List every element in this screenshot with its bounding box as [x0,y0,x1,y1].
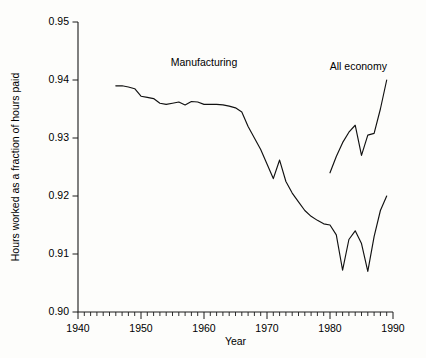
x-tick-label: 1950 [129,322,153,334]
series-label-1: All economy [330,60,388,72]
line-chart: 0.900.910.920.930.940.951940195019601970… [0,0,426,358]
x-tick-label: 1990 [381,322,405,334]
y-tick-label: 0.91 [49,247,70,259]
chart-series-lines [116,80,387,271]
x-tick-label: 1940 [66,322,90,334]
series-line-0 [116,86,387,272]
series-line-1 [330,80,387,173]
y-tick-label: 0.92 [49,189,70,201]
series-label-0: Manufacturing [171,56,238,68]
y-axis-title: Hours worked as a fraction of hours paid [9,73,21,262]
y-tick-label: 0.93 [49,131,70,143]
x-tick-label: 1980 [318,322,342,334]
y-tick-label: 0.90 [49,305,70,317]
x-tick-label: 1970 [255,322,279,334]
y-tick-label: 0.95 [49,15,70,27]
chart-series-annotations: ManufacturingAll economy [171,56,388,72]
x-tick-label: 1960 [192,322,216,334]
x-axis-title: Year [225,335,247,347]
y-tick-label: 0.94 [49,73,70,85]
chart-container: 0.900.910.920.930.940.951940195019601970… [0,0,426,358]
